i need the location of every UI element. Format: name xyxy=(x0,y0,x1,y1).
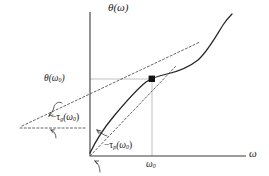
x-tick-label-omega-0: ω0 xyxy=(146,160,156,170)
operating-point-marker xyxy=(149,76,155,82)
phase-delay-annotation: −τp(ω0) xyxy=(104,141,132,151)
phase-delay-arg-close: ) xyxy=(129,140,132,150)
x-axis-label: ω xyxy=(249,148,257,159)
dashed-construction-lines xyxy=(20,42,200,156)
group-delay-annotation: −τg(ω0) xyxy=(51,113,79,123)
axes xyxy=(90,12,246,156)
operating-point-square xyxy=(149,76,155,82)
figure-canvas xyxy=(0,0,269,176)
x-tick-label-main: ω xyxy=(146,159,153,169)
group-delay-prefix: −τ xyxy=(51,112,60,122)
x-tick-label-subscript: 0 xyxy=(153,163,156,169)
phase-delay-secant-line xyxy=(90,66,176,156)
group-delay-arg-open: (ω xyxy=(63,112,73,122)
phase-delay-arg-open: (ω xyxy=(116,140,126,150)
phase-delay-prefix: −τ xyxy=(104,140,113,150)
y-tick-label-theta-omega-0: θ(ω0) xyxy=(44,74,65,84)
group-delay-arg-close: ) xyxy=(76,112,79,122)
phase-response-figure: θ(ω) ω θ(ω0) ω0 −τg(ω0) −τp(ω0) xyxy=(0,0,269,176)
y-tick-label-close: ) xyxy=(61,73,64,83)
y-tick-label-main: θ(ω xyxy=(44,73,59,83)
y-axis-label: θ(ω) xyxy=(108,2,129,13)
